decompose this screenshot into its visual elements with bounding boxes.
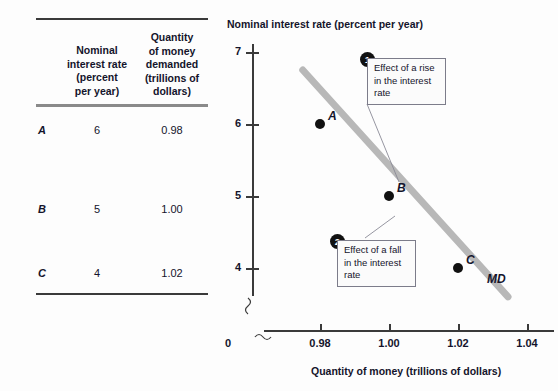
table-row-label-b: B xyxy=(38,203,54,215)
data-point-label-a: A xyxy=(328,109,337,123)
callout-2-leader-line xyxy=(365,216,395,238)
x-tick-label-1.00: 1.00 xyxy=(369,337,409,349)
x-axis-break-icon xyxy=(255,335,271,340)
x-tick-label-0.98: 0.98 xyxy=(300,337,340,349)
table-header-quantity: Quantityof moneydemanded(trillions ofdol… xyxy=(136,31,208,99)
x-tick-1.02 xyxy=(458,324,460,332)
table-cell-quantity-a: 0.98 xyxy=(136,124,208,136)
money-demand-table: Nominalinterest rate(percentper year) Qu… xyxy=(36,18,208,300)
y-tick-5 xyxy=(246,196,259,198)
y-tick-label-6: 6 xyxy=(221,117,241,129)
table-row-label-a: A xyxy=(38,124,54,136)
annotation-callout-2: Effect of a fall in the interest rate xyxy=(337,240,416,287)
table-cell-rate-c: 4 xyxy=(74,267,120,279)
y-tick-label-7: 7 xyxy=(221,45,241,57)
y-tick-label-5: 5 xyxy=(221,189,241,201)
money-demand-chart: Nominal interest rate (percent per year)… xyxy=(215,0,558,391)
x-tick-label-1.02: 1.02 xyxy=(438,337,478,349)
x-tick-1.00 xyxy=(389,324,391,332)
y-axis xyxy=(252,44,254,296)
table-header-interest-rate: Nominalinterest rate(percentper year) xyxy=(58,44,136,98)
md-curve-label: MD xyxy=(487,272,506,286)
origin-label: 0 xyxy=(225,337,231,349)
y-axis-break-icon xyxy=(246,298,251,314)
y-tick-7 xyxy=(246,52,259,54)
y-tick-label-4: 4 xyxy=(221,261,241,273)
table-bottom-rule xyxy=(36,293,208,295)
table-cell-rate-a: 6 xyxy=(74,124,120,136)
money-demand-figure: Nominalinterest rate(percentper year) Qu… xyxy=(0,0,558,391)
table-cell-quantity-b: 1.00 xyxy=(136,203,208,215)
y-tick-4 xyxy=(246,268,259,270)
x-tick-1.04 xyxy=(527,324,529,332)
x-tick-label-1.04: 1.04 xyxy=(507,337,547,349)
data-point-label-c: C xyxy=(466,253,475,267)
x-tick-0.98 xyxy=(320,324,322,332)
annotation-callout-1: Effect of a rise in the interest rate xyxy=(367,58,446,105)
table-cell-rate-b: 5 xyxy=(74,203,120,215)
callout-1-leader-line xyxy=(367,104,399,182)
data-point-c xyxy=(453,263,463,273)
y-tick-6 xyxy=(246,124,259,126)
x-axis-title: Quantity of money (trillions of dollars) xyxy=(311,365,501,377)
y-axis-title: Nominal interest rate (percent per year) xyxy=(227,18,423,30)
table-cell-quantity-c: 1.02 xyxy=(136,267,208,279)
x-axis xyxy=(264,330,554,332)
table-top-rule xyxy=(36,18,208,20)
data-point-label-b: B xyxy=(397,181,406,195)
table-header-rule xyxy=(36,104,208,107)
table-row-label-c: C xyxy=(38,267,54,279)
data-point-b xyxy=(384,191,394,201)
data-point-a xyxy=(315,119,325,129)
